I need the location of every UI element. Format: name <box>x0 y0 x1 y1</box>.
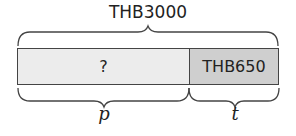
segment-t: THB650 <box>189 48 279 85</box>
segment-p: ? <box>17 48 190 85</box>
top-brace <box>18 26 278 46</box>
segment-p-value: ? <box>99 57 108 76</box>
segment-t-value: THB650 <box>202 57 265 76</box>
variable-p-label: p <box>89 103 119 124</box>
variable-t-label: t <box>220 103 250 124</box>
